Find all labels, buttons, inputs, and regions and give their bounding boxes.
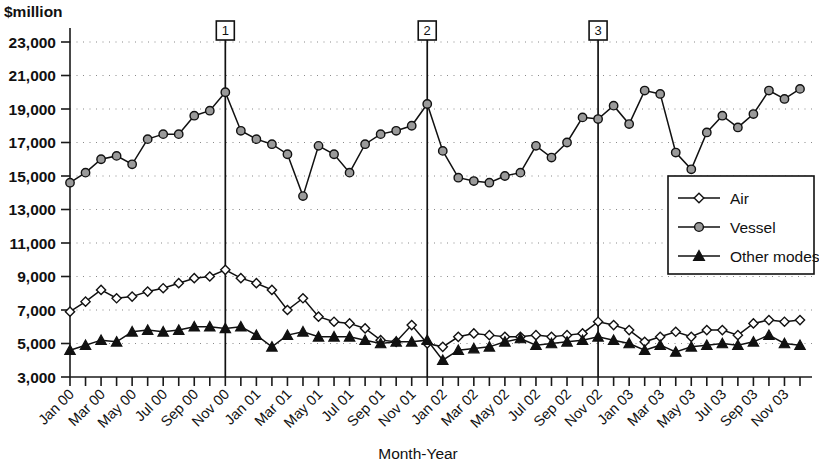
y-axis-unit-label: $million	[4, 3, 63, 20]
data-point-marker	[376, 130, 384, 138]
data-point-marker	[206, 106, 214, 114]
reference-label: 1	[222, 23, 229, 38]
data-point-marker	[283, 150, 291, 158]
data-point-marker	[695, 223, 704, 232]
data-point-marker	[718, 112, 726, 120]
y-axis-tick-label: 23,000	[9, 34, 56, 51]
data-point-marker	[703, 128, 711, 136]
data-point-marker	[609, 101, 617, 109]
data-point-marker	[330, 150, 338, 158]
data-point-marker	[159, 130, 167, 138]
reference-label: 3	[594, 23, 601, 38]
data-point-marker	[128, 160, 136, 168]
data-point-marker	[470, 177, 478, 185]
data-point-marker	[66, 179, 74, 187]
data-point-marker	[578, 113, 586, 121]
y-axis-tick-label: 13,000	[9, 201, 56, 218]
data-point-marker	[672, 148, 680, 156]
data-point-marker	[268, 140, 276, 148]
chart-container: 3,0005,0007,0009,00011,00013,00015,00017…	[0, 0, 819, 469]
data-point-marker	[439, 147, 447, 155]
data-point-marker	[252, 135, 260, 143]
data-point-marker	[392, 127, 400, 135]
data-point-marker	[734, 123, 742, 131]
data-point-marker	[485, 179, 493, 187]
y-axis-tick-label: 7,000	[17, 302, 56, 319]
data-point-marker	[81, 168, 89, 176]
line-chart: 3,0005,0007,0009,00011,00013,00015,00017…	[0, 0, 819, 469]
legend-label: Air	[730, 190, 749, 207]
data-point-marker	[749, 110, 757, 118]
data-point-marker	[640, 86, 648, 94]
y-axis-tick-label: 11,000	[9, 235, 56, 252]
y-axis-tick-label: 3,000	[17, 369, 56, 386]
data-point-marker	[532, 142, 540, 150]
legend-label: Other modes	[730, 248, 819, 265]
y-axis-tick-label: 5,000	[17, 335, 56, 352]
y-axis-tick-label: 15,000	[9, 168, 56, 185]
legend-label: Vessel	[730, 219, 776, 236]
data-point-marker	[143, 135, 151, 143]
y-axis-tick-label: 9,000	[17, 268, 56, 285]
data-point-marker	[221, 88, 229, 96]
x-axis-title: Month-Year	[378, 445, 458, 462]
data-point-marker	[454, 173, 462, 181]
y-axis-tick-label: 19,000	[9, 101, 56, 118]
data-point-marker	[408, 122, 416, 130]
data-point-marker	[687, 165, 695, 173]
data-point-marker	[237, 127, 245, 135]
data-point-marker	[501, 172, 509, 180]
data-point-marker	[299, 192, 307, 200]
data-point-marker	[361, 140, 369, 148]
data-point-marker	[796, 85, 804, 93]
y-axis-tick-label: 17,000	[9, 134, 56, 151]
data-point-marker	[594, 115, 602, 123]
data-point-marker	[345, 168, 353, 176]
data-point-marker	[175, 130, 183, 138]
data-point-marker	[112, 152, 120, 160]
data-point-marker	[563, 138, 571, 146]
data-point-marker	[780, 95, 788, 103]
data-point-marker	[97, 155, 105, 163]
data-point-marker	[547, 153, 555, 161]
data-point-marker	[625, 120, 633, 128]
data-point-marker	[314, 142, 322, 150]
data-point-marker	[656, 90, 664, 98]
data-point-marker	[765, 86, 773, 94]
chart-legend: AirVesselOther modes	[668, 176, 819, 274]
data-point-marker	[190, 112, 198, 120]
reference-label: 2	[424, 23, 431, 38]
data-point-marker	[423, 100, 431, 108]
data-point-marker	[516, 168, 524, 176]
y-axis-tick-label: 21,000	[9, 67, 56, 84]
